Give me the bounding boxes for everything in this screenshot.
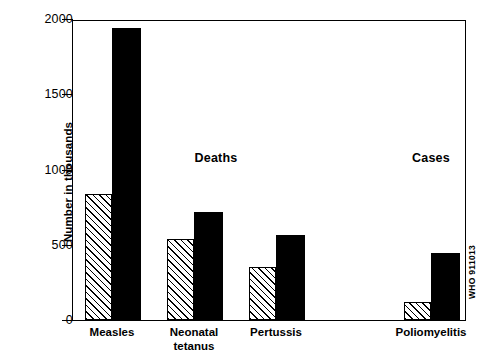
annotation-deaths: Deaths (195, 151, 238, 165)
x-axis-label-neonatal-tetanus: Neonatal tetanus (170, 326, 219, 353)
y-axis-tick-label: 1000 (44, 163, 73, 177)
y-axis-tick-label: 1500 (44, 87, 73, 101)
y-axis-tick-label: 500 (52, 238, 73, 252)
bar-pertussis-occurring (249, 267, 276, 320)
bar-measles-occurring (85, 194, 112, 320)
bar-poliomyelitis-occurring (404, 302, 431, 320)
x-axis-label-pertussis: Pertussis (250, 326, 302, 340)
bar-pertussis-prevented (276, 235, 305, 320)
chart-figure: Number in thousands Occurring Prevented … (0, 0, 500, 363)
bar-poliomyelitis-prevented (431, 253, 460, 320)
source-stamp: WHO 911013 (467, 245, 477, 299)
bar-neonatal-tetanus-prevented (194, 212, 223, 320)
y-axis-tick-label: 2000 (44, 12, 73, 26)
x-axis-label-poliomyelitis: Poliomyelitis (396, 326, 467, 340)
y-axis-tick-label: 0 (66, 313, 73, 327)
plot-area: 0500100015002000 DeathsCases (72, 20, 466, 321)
x-axis-label-measles: Measles (90, 326, 135, 340)
bar-neonatal-tetanus-occurring (167, 239, 194, 320)
annotation-cases: Cases (412, 151, 450, 165)
bar-measles-prevented (112, 28, 141, 320)
